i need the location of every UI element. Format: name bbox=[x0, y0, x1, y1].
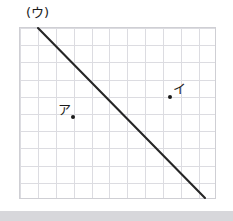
point-marker-i bbox=[168, 95, 172, 99]
grid-plot-area bbox=[19, 27, 216, 199]
point-label-a: ア bbox=[58, 103, 71, 116]
math-grid-figure: (ウ) ア イ bbox=[0, 0, 233, 221]
bottom-divider-band bbox=[0, 211, 233, 221]
point-marker-a bbox=[71, 115, 75, 119]
line-label-u: (ウ) bbox=[26, 6, 49, 19]
point-label-i: イ bbox=[173, 82, 186, 95]
